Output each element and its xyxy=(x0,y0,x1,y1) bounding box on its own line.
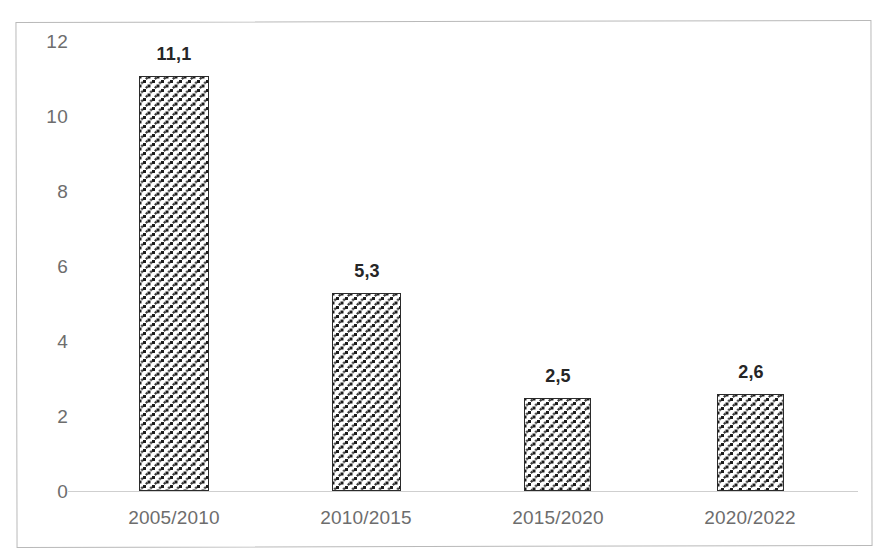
x-tick-label-2020-2022: 2020/2022 xyxy=(680,507,820,529)
bar-value-label-2010-2015: 5,3 xyxy=(327,261,407,282)
y-tick-label-12: 12 xyxy=(22,31,68,53)
bar-2005-2010[interactable] xyxy=(139,76,209,491)
bar-2020-2022[interactable] xyxy=(717,394,784,491)
x-tick-label-2010-2015: 2010/2015 xyxy=(296,507,436,529)
bar-chart-plot-area: 12 10 8 6 4 2 0 11,1 5,3 2,5 2,6 2005/20… xyxy=(0,0,888,559)
bar-2010-2015[interactable] xyxy=(332,293,401,491)
x-tick-label-2005-2010: 2005/2010 xyxy=(104,507,244,529)
y-tick-label-6: 6 xyxy=(22,256,68,278)
bar-value-label-2020-2022: 2,6 xyxy=(711,362,791,383)
x-tick-label-2015-2020: 2015/2020 xyxy=(488,507,628,529)
y-tick-label-2: 2 xyxy=(22,406,68,428)
y-tick-label-0: 0 xyxy=(22,481,68,503)
y-tick-label-10: 10 xyxy=(22,106,68,128)
y-tick-label-8: 8 xyxy=(22,181,68,203)
bar-value-label-2015-2020: 2,5 xyxy=(518,366,598,387)
x-axis-baseline xyxy=(68,491,858,492)
y-tick-label-4: 4 xyxy=(22,331,68,353)
bar-2015-2020[interactable] xyxy=(524,398,591,491)
bar-value-label-2005-2010: 11,1 xyxy=(134,44,214,65)
